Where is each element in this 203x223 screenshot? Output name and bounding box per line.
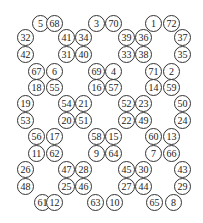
number-circle: 15 <box>105 128 122 145</box>
number-circle: 50 <box>174 95 191 112</box>
number-circle: 64 <box>105 145 122 162</box>
number-circle: 14 <box>145 79 162 96</box>
number-circle: 18 <box>28 79 45 96</box>
number-circle: 55 <box>46 79 63 96</box>
number-circle: 42 <box>17 46 34 63</box>
number-circle: 60 <box>145 128 162 145</box>
number-circle: 24 <box>174 112 191 129</box>
number-circle: 51 <box>75 112 92 129</box>
number-circle: 7 <box>145 145 162 162</box>
number-circle: 43 <box>174 161 191 178</box>
number-circle: 48 <box>17 178 34 195</box>
number-circle: 25 <box>58 178 75 195</box>
number-circle: 8 <box>165 194 182 211</box>
number-circle: 59 <box>163 79 180 96</box>
number-circle: 41 <box>58 29 75 46</box>
number-circle: 17 <box>46 128 63 145</box>
number-circle: 19 <box>17 95 34 112</box>
number-circle: 45 <box>118 161 135 178</box>
number-circle-puzzle: 5683701723241343936374231403338356766947… <box>0 0 203 223</box>
number-circle: 68 <box>46 15 63 32</box>
number-circle: 34 <box>75 29 92 46</box>
number-circle: 49 <box>135 112 152 129</box>
number-circle: 13 <box>163 128 180 145</box>
number-circle: 40 <box>75 46 92 63</box>
number-circle: 22 <box>118 112 135 129</box>
number-circle: 31 <box>58 46 75 63</box>
number-circle: 9 <box>88 145 105 162</box>
number-circle: 39 <box>118 29 135 46</box>
number-circle: 30 <box>135 161 152 178</box>
number-circle: 67 <box>28 63 45 80</box>
number-circle: 36 <box>135 29 152 46</box>
number-circle: 27 <box>118 178 135 195</box>
number-circle: 71 <box>145 63 162 80</box>
number-circle: 56 <box>28 128 45 145</box>
number-circle: 54 <box>58 95 75 112</box>
number-circle: 28 <box>75 161 92 178</box>
number-circle: 47 <box>58 161 75 178</box>
number-circle: 70 <box>105 15 122 32</box>
number-circle: 20 <box>58 112 75 129</box>
number-circle: 44 <box>135 178 152 195</box>
number-circle: 6 <box>46 63 63 80</box>
number-circle: 62 <box>46 145 63 162</box>
number-circle: 57 <box>105 79 122 96</box>
number-circle: 69 <box>88 63 105 80</box>
number-circle: 16 <box>88 79 105 96</box>
number-circle: 23 <box>135 95 152 112</box>
number-circle: 11 <box>28 145 45 162</box>
number-circle: 53 <box>17 112 34 129</box>
number-circle: 38 <box>135 46 152 63</box>
number-circle: 10 <box>106 194 123 211</box>
number-circle: 66 <box>163 145 180 162</box>
number-circle: 26 <box>17 161 34 178</box>
number-circle: 3 <box>88 15 105 32</box>
number-circle: 2 <box>163 63 180 80</box>
number-circle: 4 <box>105 63 122 80</box>
number-circle: 52 <box>118 95 135 112</box>
number-circle: 21 <box>75 95 92 112</box>
number-circle: 37 <box>174 29 191 46</box>
number-circle: 35 <box>174 46 191 63</box>
number-circle: 29 <box>174 178 191 195</box>
number-circle: 33 <box>118 46 135 63</box>
number-circle: 63 <box>87 194 104 211</box>
number-circle: 12 <box>46 194 63 211</box>
number-circle: 58 <box>88 128 105 145</box>
number-circle: 46 <box>75 178 92 195</box>
number-circle: 32 <box>17 29 34 46</box>
number-circle: 65 <box>146 194 163 211</box>
